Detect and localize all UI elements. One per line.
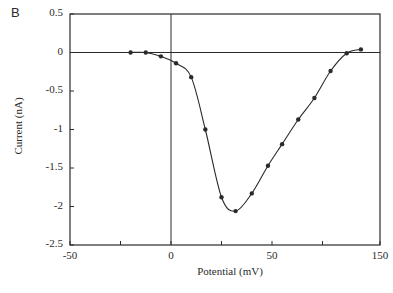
data-point-marker — [312, 96, 316, 100]
x-tick-label: 150 — [365, 249, 393, 261]
y-tick-label: -2 — [33, 199, 63, 211]
x-tick-label: 0 — [156, 249, 186, 261]
x-tick-label: 50 — [257, 249, 287, 261]
y-tick-label: -0.5 — [33, 83, 63, 95]
data-point-marker — [296, 117, 300, 121]
y-axis-label: Current (nA) — [12, 86, 24, 166]
y-tick-label: -1 — [33, 122, 63, 134]
data-point-marker — [280, 142, 284, 146]
data-point-marker — [159, 54, 163, 58]
data-point-marker — [203, 127, 207, 131]
y-tick-label: -2.5 — [33, 237, 63, 249]
data-point-marker — [345, 51, 349, 55]
axes-frame — [70, 14, 380, 245]
data-points — [128, 47, 363, 213]
x-axis-label: Potential (mV) — [175, 265, 285, 277]
x-tick-label: -50 — [55, 249, 85, 261]
iv-chart: B 0.50-0.5-1-1.5-2-2.5 -50050150 Current… — [0, 0, 393, 293]
data-point-marker — [189, 75, 193, 79]
data-point-marker — [266, 163, 270, 167]
data-point-marker — [219, 195, 223, 199]
axes-box — [70, 14, 380, 245]
y-tick-label: -1.5 — [33, 160, 63, 172]
data-point-marker — [359, 47, 363, 51]
data-point-marker — [328, 69, 332, 73]
data-point-marker — [144, 50, 148, 54]
data-point-marker — [250, 191, 254, 195]
fit-curve — [131, 49, 361, 211]
y-tick-label: 0 — [33, 45, 63, 57]
data-point-marker — [174, 61, 178, 65]
tick-marks — [70, 14, 380, 245]
reference-lines — [70, 14, 380, 245]
data-point-marker — [128, 50, 132, 54]
data-point-marker — [233, 209, 237, 213]
y-tick-label: 0.5 — [33, 6, 63, 18]
